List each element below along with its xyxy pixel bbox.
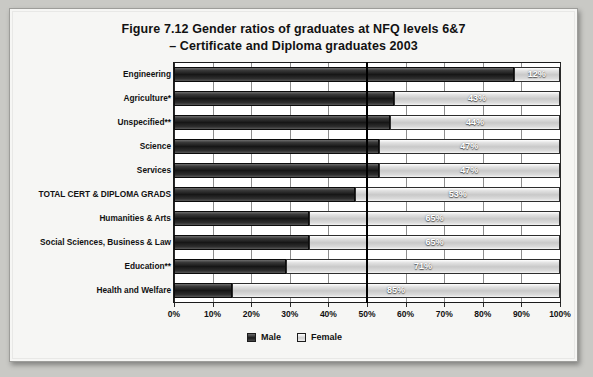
chart-legend: MaleFemale: [10, 332, 579, 342]
x-tick-mark: [328, 303, 329, 307]
x-tick-label: 0%: [168, 309, 180, 319]
legend-item-male[interactable]: Male: [247, 332, 281, 342]
bar-value-label: 12%: [528, 67, 546, 82]
x-tick-mark: [367, 303, 368, 307]
gridline-100: [560, 63, 561, 302]
bar-value-label: 53%: [449, 187, 467, 202]
category-axis: EngineeringAgriculture*Unspecified**Scie…: [16, 62, 171, 303]
bar-segment-male: [174, 67, 514, 82]
x-tick-mark: [444, 303, 445, 307]
category-label: Health and Welfare: [96, 283, 171, 297]
fifty-percent-reference-line: [366, 62, 368, 303]
x-tick-label: 90%: [513, 309, 530, 319]
x-tick-mark: [521, 303, 522, 307]
bar-segment-male: [174, 163, 379, 178]
bar-value-label: 47%: [460, 139, 478, 154]
category-label: Agriculture*: [124, 91, 171, 105]
x-axis: 0%10%20%30%40%50%60%70%80%90%100%: [173, 303, 561, 327]
x-tick-mark: [483, 303, 484, 307]
bar-value-label: 65%: [426, 235, 444, 250]
category-label: Social Sciences, Business & Law: [40, 235, 171, 249]
bar-segment-male: [174, 235, 309, 250]
bar-segment-male: [174, 283, 232, 298]
x-tick-label: 80%: [474, 309, 491, 319]
legend-item-female[interactable]: Female: [297, 332, 342, 342]
bar-segment-male: [174, 139, 379, 154]
bar-value-label: 47%: [460, 163, 478, 178]
x-tick-label: 30%: [281, 309, 298, 319]
bar-value-label: 85%: [387, 283, 405, 298]
legend-label: Male: [261, 332, 281, 342]
bar-segment-male: [174, 187, 355, 202]
category-label: Unspecified**: [118, 115, 171, 129]
category-label: Education**: [124, 259, 171, 273]
x-tick-label: 50%: [358, 309, 375, 319]
bar-segment-male: [174, 259, 286, 274]
legend-swatch-icon: [247, 333, 256, 342]
legend-swatch-icon: [297, 333, 306, 342]
x-tick-label: 100%: [549, 309, 571, 319]
bar-segment-male: [174, 211, 309, 226]
category-label: Science: [140, 139, 171, 153]
plot-area: 12%43%44%47%47%53%65%65%71%85%: [173, 62, 561, 303]
legend-label: Female: [311, 332, 342, 342]
category-label: Engineering: [123, 67, 171, 81]
bar-value-label: 43%: [468, 91, 486, 106]
x-tick-label: 60%: [397, 309, 414, 319]
category-label: TOTAL CERT & DIPLOMA GRADS: [39, 187, 171, 201]
figure-card: Figure 7.12 Gender ratios of graduates a…: [9, 8, 578, 362]
x-tick-mark: [251, 303, 252, 307]
x-tick-mark: [290, 303, 291, 307]
x-tick-mark: [174, 303, 175, 307]
x-tick-label: 70%: [436, 309, 453, 319]
x-tick-label: 10%: [204, 309, 221, 319]
x-tick-mark: [406, 303, 407, 307]
x-tick-label: 40%: [320, 309, 337, 319]
category-label: Services: [137, 163, 171, 177]
x-tick-mark: [560, 303, 561, 307]
bar-value-label: 44%: [466, 115, 484, 130]
bar-value-label: 65%: [426, 211, 444, 226]
category-label: Humanities & Arts: [99, 211, 171, 225]
x-tick-label: 20%: [243, 309, 260, 319]
plot-wrapper: EngineeringAgriculture*Unspecified**Scie…: [10, 9, 579, 363]
bar-segment-male: [174, 91, 394, 106]
bar-value-label: 71%: [414, 259, 432, 274]
bar-segment-male: [174, 115, 390, 130]
x-tick-mark: [213, 303, 214, 307]
